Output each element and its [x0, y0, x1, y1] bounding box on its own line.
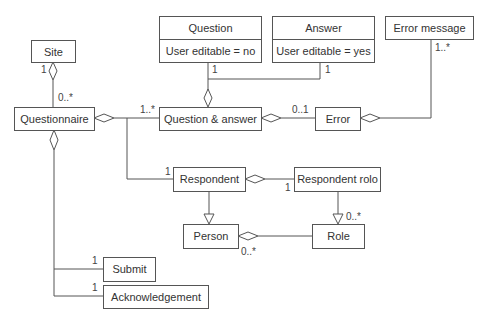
class-name: Respondent [174, 168, 245, 191]
multiplicity-label: 1..* [435, 42, 450, 53]
multiplicity-label: 1 [92, 282, 98, 293]
class-error[interactable]: Error [315, 107, 361, 131]
aggregation-diamond-icon [238, 232, 258, 240]
class-name: Submit [104, 258, 155, 281]
class-name: Question [160, 17, 261, 39]
class-name: Acknowledgement [104, 286, 208, 308]
aggregation-diamond-icon [204, 89, 212, 107]
class-name: Person [184, 225, 238, 248]
multiplicity-label: 0..* [241, 246, 256, 257]
multiplicity-label: 1 [41, 64, 47, 75]
class-answer[interactable]: Answer User editable = yes [272, 16, 375, 63]
class-name: Question & answer [160, 108, 261, 130]
class-name: Questionnaire [15, 108, 94, 130]
multiplicity-label: 0..1 [292, 104, 309, 115]
class-attribute: User editable = yes [273, 39, 374, 62]
multiplicity-label: 1 [285, 182, 291, 193]
multiplicity-label: 1 [212, 64, 218, 75]
class-name: Site [32, 41, 75, 63]
class-respondent[interactable]: Respondent [173, 167, 246, 192]
class-name: Error [316, 108, 360, 130]
class-error-message[interactable]: Error message [385, 16, 474, 40]
multiplicity-label: 0..* [58, 92, 73, 103]
class-submit[interactable]: Submit [103, 257, 156, 282]
class-site[interactable]: Site [31, 40, 76, 63]
aggregation-diamond-icon [49, 62, 57, 80]
class-attribute: User editable = no [160, 39, 261, 62]
class-name: Respondent rolo [295, 168, 380, 191]
generalization-triangle-icon [333, 214, 343, 224]
class-respondent-role[interactable]: Respondent rolo [294, 167, 381, 192]
aggregation-diamond-icon [360, 114, 380, 122]
class-role[interactable]: Role [312, 224, 365, 249]
aggregation-diamond-icon [245, 175, 265, 183]
aggregation-diamond-icon [94, 114, 114, 122]
class-name: Answer [273, 17, 374, 39]
class-acknowledgement[interactable]: Acknowledgement [103, 285, 209, 309]
multiplicity-label: 1 [92, 255, 98, 266]
class-question[interactable]: Question User editable = no [159, 16, 262, 63]
class-questionnaire[interactable]: Questionnaire [14, 107, 95, 131]
class-person[interactable]: Person [183, 224, 239, 249]
aggregation-diamond-icon [261, 114, 281, 122]
multiplicity-label: 1 [325, 64, 331, 75]
class-name: Role [313, 225, 364, 248]
multiplicity-label: 1 [165, 166, 171, 177]
multiplicity-label: 1..* [140, 104, 155, 115]
class-question-answer[interactable]: Question & answer [159, 107, 262, 131]
class-name: Error message [386, 17, 473, 39]
generalization-triangle-icon [204, 214, 214, 224]
aggregation-diamond-icon [50, 130, 58, 150]
multiplicity-label: 0..* [346, 211, 361, 222]
